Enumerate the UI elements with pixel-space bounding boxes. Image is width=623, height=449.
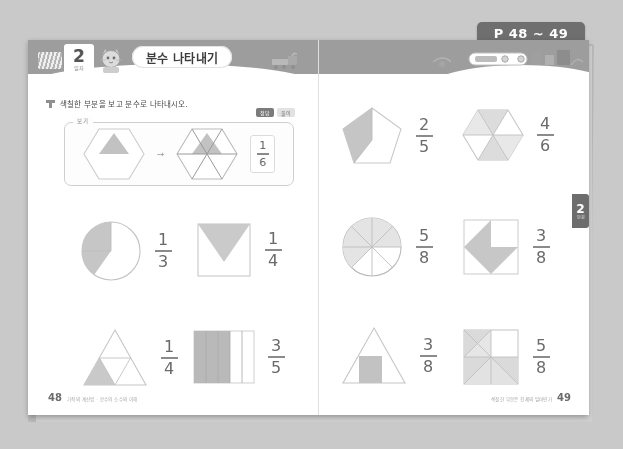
problem-left-2-fraction: 1 4 [264,230,282,270]
left-page-number: 48 [48,392,62,403]
triangle-quarter-shaded-icon [82,328,148,388]
problem-right-4: 3 8 [462,218,550,276]
problem-right-5-fraction: 3 8 [419,336,437,376]
numerator: 1 [160,338,178,356]
problem-right-2: 4 6 [462,108,554,162]
hexagon-divided-six-parts-icon [176,127,238,181]
square-with-triangle-icon [196,222,252,278]
lesson-chip: 2 일차 [64,44,94,74]
hexagon-with-shaded-triangle-icon [83,127,145,181]
right-page-footer: 색칠한 부분은 전체의 얼마인가 49 [491,392,571,403]
numerator: 2 [415,116,433,134]
triangle-with-square-icon [341,326,407,386]
denominator: 5 [415,138,433,156]
numerator: 5 [415,227,433,245]
numerator: 1 [154,231,172,249]
book-spread: 2 일차 분수 나타내기 [28,40,588,415]
problem-left-3: 1 4 [82,328,178,388]
denominator: 8 [532,359,550,377]
denominator: 4 [264,252,282,270]
problem-left-2: 1 4 [196,222,282,278]
example-denominator: 6 [255,156,270,169]
instruction-line: 색칠한 부분을 보고 분수로 나타내시오. [46,98,188,109]
page-range-label: P 48 ~ 49 [494,26,569,41]
train-illustration-icon [433,46,583,72]
rectangle-five-strips-icon [193,330,255,384]
numerator: 1 [264,230,282,248]
numerator: 3 [532,227,550,245]
problem-right-3-fraction: 5 8 [415,227,433,267]
numerator: 3 [419,336,437,354]
denominator: 8 [419,358,437,376]
side-tab-sub-label: 단원 [577,216,585,220]
left-footer-note: 기적의 계산법 · 분수와 소수의 이해 [67,396,138,402]
answer-badge: 정답 [256,108,274,117]
fraction-bar [257,153,269,155]
circle-third-shaded-icon [80,220,142,282]
square-bullet-icon [46,99,55,108]
problem-right-2-fraction: 4 6 [536,115,554,155]
problem-left-3-fraction: 1 4 [160,338,178,378]
pentagon-two-fifths-icon [341,106,403,166]
denominator: 4 [160,360,178,378]
problem-left-4-fraction: 3 5 [267,337,285,377]
example-arrow: → [157,149,165,159]
answer-badge-group[interactable]: 정답 풀이 [256,108,295,117]
problem-right-4-fraction: 3 8 [532,227,550,267]
side-index-tab[interactable]: 2 단원 [572,194,589,228]
example-fraction: 1 6 [250,135,275,173]
cat-mascot-icon [98,46,124,73]
right-page: 2 5 4 6 [318,40,589,415]
circle-eighths-icon [341,216,403,278]
square-grid-diagonals-icon [462,328,520,386]
right-footer-note: 색칠한 부분은 전체의 얼마인가 [491,396,552,402]
problem-left-4: 3 5 [193,330,285,384]
train-illustration-icon [268,52,308,70]
problem-right-1: 2 5 [341,106,433,166]
stripes-icon [38,52,62,69]
denominator: 3 [154,253,172,271]
square-arrow-shape-icon [462,218,520,276]
problem-right-1-fraction: 2 5 [415,116,433,156]
denominator: 6 [536,137,554,155]
workbook-screenshot: P 48 ~ 49 2 일차 분수 [0,0,623,449]
denominator: 5 [267,359,285,377]
denominator: 8 [532,249,550,267]
numerator: 3 [267,337,285,355]
left-page: 2 일차 분수 나타내기 [28,40,318,415]
problem-right-6-fraction: 5 8 [532,337,550,377]
example-box: 보기 → 1 [64,122,294,186]
problem-right-6: 5 8 [462,328,550,386]
problem-right-5: 3 8 [341,326,437,386]
numerator: 4 [536,115,554,133]
right-page-number: 49 [557,392,571,403]
lesson-title-plate: 분수 나타내기 [132,46,232,68]
hexagon-four-sixths-icon [462,108,524,162]
side-tab-number: 2 [576,203,584,215]
example-numerator: 1 [255,139,270,152]
left-page-footer: 48 기적의 계산법 · 분수와 소수의 이해 [48,392,138,403]
numerator: 5 [532,337,550,355]
denominator: 8 [415,249,433,267]
lesson-number: 2 [73,48,85,65]
page-title: 분수 나타내기 [146,49,218,66]
example-row: → 1 6 [65,123,293,185]
solution-badge: 풀이 [277,108,295,117]
problem-left-1-fraction: 1 3 [154,231,172,271]
instruction-text: 색칠한 부분을 보고 분수로 나타내시오. [60,98,188,109]
lesson-sub-label: 일차 [74,66,84,71]
problem-left-1: 1 3 [80,220,172,282]
problem-right-3: 5 8 [341,216,433,278]
